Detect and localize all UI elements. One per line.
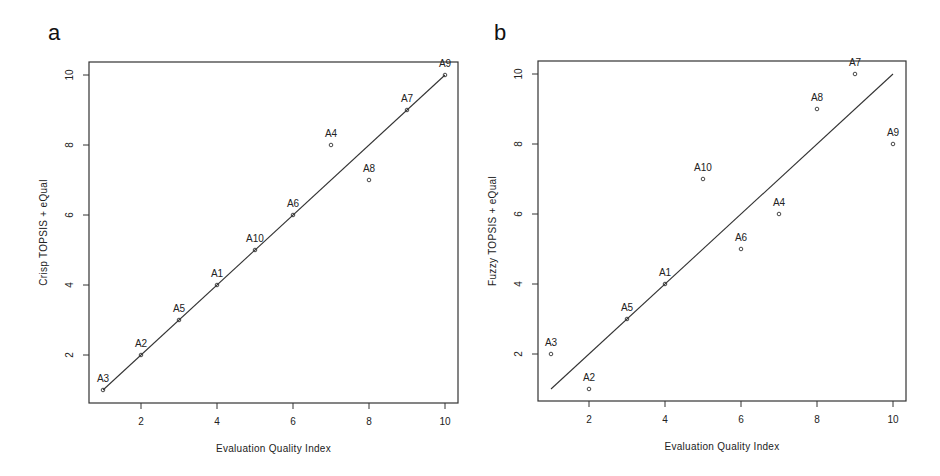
x-tick-label: 10 [887, 414, 899, 425]
x-tick-label: 4 [662, 414, 668, 425]
point-label-a3: A3 [97, 373, 110, 384]
point-label-a6: A6 [287, 198, 300, 209]
point-label-a2: A2 [583, 372, 596, 383]
point-label-a4: A4 [325, 128, 338, 139]
x-tick-label: 6 [290, 416, 296, 427]
x-tick-label: 8 [814, 414, 820, 425]
y-tick-label: 2 [64, 352, 75, 358]
point-label-a5: A5 [173, 303, 186, 314]
y-tick-label: 8 [64, 142, 75, 148]
y-tick-label: 6 [513, 211, 524, 217]
point-label-a7: A7 [401, 93, 414, 104]
chart-panel-a: a 246810246810Evaluation Quality IndexCr… [0, 0, 470, 476]
data-point-a3 [549, 352, 553, 356]
point-label-a4: A4 [773, 197, 786, 208]
data-point-a7 [853, 72, 857, 76]
y-tick-label: 10 [513, 68, 524, 80]
point-label-a5: A5 [621, 302, 634, 313]
point-label-a3: A3 [545, 337, 558, 348]
x-axis-label: Evaluation Quality Index [664, 441, 779, 452]
data-point-a2 [587, 387, 591, 391]
y-tick-label: 4 [64, 282, 75, 288]
x-axis-label: Evaluation Quality Index [216, 443, 331, 454]
point-label-a8: A8 [811, 92, 824, 103]
scatter-plot-b: 246810246810Evaluation Quality IndexFuzz… [450, 0, 940, 476]
point-label-a10: A10 [694, 162, 712, 173]
data-point-a8 [815, 107, 819, 111]
y-tick-label: 2 [513, 351, 524, 357]
data-point-a9 [891, 142, 895, 146]
chart-panel-b: b 246810246810Evaluation Quality IndexFu… [450, 0, 920, 476]
point-label-a6: A6 [735, 232, 748, 243]
x-tick-label: 6 [738, 414, 744, 425]
data-point-a10 [701, 177, 705, 181]
reference-line [103, 75, 445, 390]
x-tick-label: 2 [138, 416, 144, 427]
y-axis-label: Crisp TOPSIS + eQual [38, 179, 49, 286]
x-tick-label: 4 [214, 416, 220, 427]
y-axis-label: Fuzzy TOPSIS + eQual [487, 176, 498, 286]
y-tick-label: 8 [513, 141, 524, 147]
x-tick-label: 2 [586, 414, 592, 425]
data-point-a4 [777, 212, 781, 216]
point-label-a10: A10 [246, 233, 264, 244]
scatter-plot-a: 246810246810Evaluation Quality IndexCris… [0, 0, 470, 476]
y-tick-label: 6 [64, 212, 75, 218]
point-label-a8: A8 [363, 163, 376, 174]
data-point-a4 [329, 143, 333, 147]
point-label-a9: A9 [887, 127, 900, 138]
y-tick-label: 10 [64, 69, 75, 81]
data-point-a6 [739, 247, 743, 251]
reference-line [551, 74, 893, 389]
point-label-a7: A7 [849, 57, 862, 68]
point-label-a2: A2 [135, 338, 148, 349]
point-label-a1: A1 [211, 268, 224, 279]
x-tick-label: 8 [366, 416, 372, 427]
point-label-a1: A1 [659, 267, 672, 278]
y-tick-label: 4 [513, 281, 524, 287]
data-point-a8 [367, 178, 371, 182]
